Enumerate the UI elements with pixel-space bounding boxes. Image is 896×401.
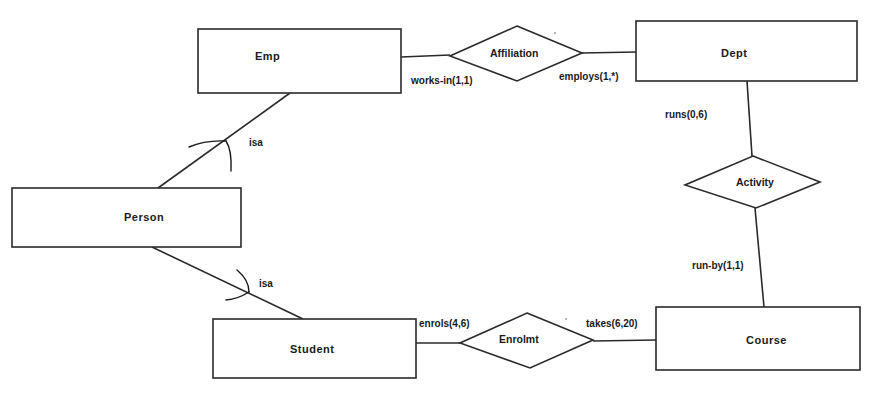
edge-affiliation-dept [582,52,636,53]
edge-enrolmt-course [593,340,656,341]
entity-dept[interactable]: Dept [636,21,857,81]
er-diagram: Emp Dept Person Student Course Affiliati… [0,0,896,401]
cardinality-works-in: works-in(1,1) [410,75,473,86]
edge-dept-activity [747,81,752,156]
cardinality-enrols: enrols(4,6) [419,318,470,329]
relationship-activity[interactable]: Activity [685,156,820,208]
entity-person[interactable]: Person [12,188,241,247]
cardinality-takes: takes(6,20) [586,318,638,329]
isa-label-emp: isa [249,137,263,148]
scan-speck [565,318,567,320]
entity-student[interactable]: Student [213,319,416,378]
relationship-enrolmt[interactable]: Enrolmt [460,313,593,368]
relationship-enrolmt-label: Enrolmt [499,333,539,345]
entity-person-label: Person [124,211,164,223]
entity-course-label: Course [746,334,787,346]
entity-dept-label: Dept [721,47,747,59]
entity-emp[interactable]: Emp [198,29,401,93]
cardinality-employs: employs(1,*) [559,71,618,82]
isa-arrow-icon-student [226,270,249,300]
entity-student-label: Student [290,343,334,355]
entity-course[interactable]: Course [656,307,860,370]
cardinality-run-by: run-by(1,1) [692,260,744,271]
edge-isa-student-person [152,247,303,319]
relationship-activity-label: Activity [736,176,774,188]
isa-arrow-icon-emp [189,141,231,171]
relationship-affiliation-label: Affiliation [490,47,538,59]
cardinality-runs: runs(0,6) [665,109,707,120]
edge-emp-affiliation [401,55,450,57]
edge-activity-course [755,208,764,307]
entity-emp-label: Emp [255,50,280,62]
isa-label-student: isa [259,278,273,289]
scan-speck [554,32,556,34]
